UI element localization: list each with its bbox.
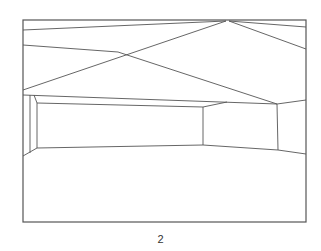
right-wall-vertical bbox=[277, 104, 278, 150]
floor-right-edge-ext bbox=[278, 150, 306, 154]
room-perspective-drawing bbox=[0, 0, 321, 251]
drawing-frame bbox=[23, 20, 306, 222]
ceiling-line-top-left bbox=[23, 21, 226, 30]
floor-right-edge bbox=[203, 145, 278, 150]
back-wall-top bbox=[37, 103, 203, 107]
ceiling-line-top-right bbox=[229, 21, 306, 27]
ceiling-line-apex-left-diag bbox=[23, 21, 226, 90]
ceiling-line-mid-left bbox=[23, 45, 118, 52]
back-wall-left-slant bbox=[34, 95, 37, 103]
figure-caption: 2 bbox=[0, 233, 321, 245]
ceiling-line-mid-diag bbox=[118, 52, 277, 104]
ceiling-edge-back bbox=[23, 95, 277, 104]
drawing-lines bbox=[23, 21, 306, 156]
floor-back-edge bbox=[37, 145, 203, 148]
ceiling-edge-right bbox=[277, 100, 306, 104]
back-wall-top-right bbox=[203, 102, 227, 107]
ceiling-line-apex-right bbox=[229, 21, 306, 49]
